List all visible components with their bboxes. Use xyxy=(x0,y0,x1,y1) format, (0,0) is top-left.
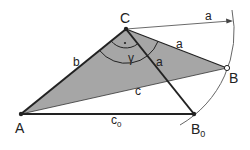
label-c-point: C xyxy=(120,10,130,26)
triangle-construction-diagram: C A B B0 b c c0 a a a γ xyxy=(0,0,250,150)
label-b-point: B xyxy=(229,70,238,86)
label-side-c0: c0 xyxy=(111,113,122,129)
label-b0-point: B0 xyxy=(191,121,205,139)
label-side-c: c xyxy=(135,84,141,98)
label-radius-a: a xyxy=(205,9,212,23)
label-side-a-cb: a xyxy=(176,37,183,51)
point-a xyxy=(19,112,23,116)
point-b0 xyxy=(192,112,196,116)
label-angle-gamma: γ xyxy=(128,51,134,65)
right-angle-dot-icon xyxy=(124,42,126,44)
point-c xyxy=(124,27,128,31)
radius-arrowhead xyxy=(226,19,233,24)
label-side-a-cb0: a xyxy=(156,55,163,69)
label-a-point: A xyxy=(15,120,25,136)
label-side-b: b xyxy=(73,55,80,69)
radius-line xyxy=(126,21,230,29)
triangle-abc xyxy=(21,29,227,114)
